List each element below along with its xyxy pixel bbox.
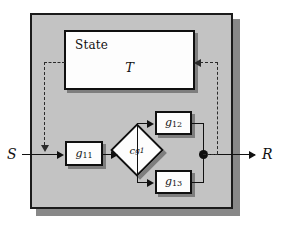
dashed-wire-junction-tap <box>203 154 218 155</box>
dashed-wire-junction-rise <box>217 62 218 154</box>
node-g12-label: g12 <box>165 117 182 129</box>
arrowhead-into-g12 <box>147 120 154 128</box>
arrowhead-into-output <box>249 151 256 159</box>
node-g11[interactable]: g11 <box>65 141 103 166</box>
arrowhead-into-state-box <box>194 59 201 67</box>
arrowhead-into-g13 <box>147 179 154 187</box>
dashed-wire-state-drop <box>44 62 45 145</box>
arrowhead-into-input-line <box>41 145 49 152</box>
node-g12[interactable]: g12 <box>155 111 192 135</box>
node-g13[interactable]: g13 <box>155 170 192 194</box>
state-box[interactable]: State T <box>64 30 195 90</box>
wire-cg1-down-branch <box>137 154 138 182</box>
node-g11-label: g11 <box>75 148 92 160</box>
state-variable-label: T <box>66 60 193 75</box>
dashed-wire-into-state <box>200 62 218 63</box>
input-label-s: S <box>7 146 17 162</box>
arrowhead-into-cg1 <box>111 151 118 159</box>
wire-input-to-g11 <box>22 154 58 155</box>
state-box-label: State <box>75 38 108 52</box>
wire-cg1-up-branch <box>137 123 138 155</box>
arrowhead-into-g11 <box>57 151 64 159</box>
dashed-wire-state-out <box>44 62 65 63</box>
block-diagram-canvas: State T g11 g12 g13 cg1 <box>0 0 285 236</box>
output-label-r: R <box>262 146 273 162</box>
node-g13-label: g13 <box>165 176 182 188</box>
